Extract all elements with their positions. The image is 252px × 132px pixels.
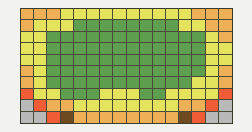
grid-cell-orange-r5c15 bbox=[219, 66, 232, 77]
grid-cell-yellow-r4c14 bbox=[206, 55, 219, 66]
grid-cell-yellow-r7c11 bbox=[166, 89, 179, 100]
grid-cell-green-r6c7 bbox=[113, 77, 126, 88]
grid-cell-yellow-r7c6 bbox=[100, 89, 113, 100]
grid-cell-yellow-r3c1 bbox=[34, 43, 47, 54]
grid-cell-red-r7c0 bbox=[21, 89, 34, 100]
grid-cell-green-r3c10 bbox=[153, 43, 166, 54]
grid-cell-yellow-r2c1 bbox=[34, 32, 47, 43]
grid-cell-yellow-r7c1 bbox=[34, 89, 47, 100]
grid-cell-green-r5c6 bbox=[100, 66, 113, 77]
grid-cell-green-r4c2 bbox=[47, 55, 60, 66]
grid-cell-green-r5c5 bbox=[87, 66, 100, 77]
grid-cell-green-r7c5 bbox=[87, 89, 100, 100]
grid-cell-yellow-r1c3 bbox=[61, 20, 74, 31]
grid-cell-yellow-r8c6 bbox=[100, 100, 113, 111]
grid-cell-green-r1c6 bbox=[100, 20, 113, 31]
grid-cell-yellow-r2c0 bbox=[21, 32, 34, 43]
grid-cell-green-r3c13 bbox=[192, 43, 205, 54]
grid-cell-yellow-r3c15 bbox=[219, 43, 232, 54]
grid-cell-yellow-r6c1 bbox=[34, 77, 47, 88]
grid-cell-green-r2c3 bbox=[61, 32, 74, 43]
grid-cell-green-r5c9 bbox=[140, 66, 153, 77]
grid-cell-yellow-r0c4 bbox=[74, 9, 87, 20]
grid-cell-yellow-r3c0 bbox=[21, 43, 34, 54]
grid-cell-green-r3c9 bbox=[140, 43, 153, 54]
grid-cell-green-r6c9 bbox=[140, 77, 153, 88]
grid-cell-green-r4c6 bbox=[100, 55, 113, 66]
grid-cell-orange-r8c13 bbox=[192, 100, 205, 111]
grid-cell-yellow-r1c2 bbox=[47, 20, 60, 31]
grid-cell-orange-r9c8 bbox=[127, 112, 140, 123]
grid-cell-orange-r0c0 bbox=[21, 9, 34, 20]
grid-cell-green-r2c4 bbox=[74, 32, 87, 43]
grid-cell-green-r3c4 bbox=[74, 43, 87, 54]
grid-cell-gray-r8c15 bbox=[219, 100, 232, 111]
grid-cell-green-r2c6 bbox=[100, 32, 113, 43]
grid-cell-orange-r6c15 bbox=[219, 77, 232, 88]
grid-cell-green-r5c8 bbox=[127, 66, 140, 77]
grid-cell-orange-r9c11 bbox=[166, 112, 179, 123]
grid-cell-green-r2c8 bbox=[127, 32, 140, 43]
grid-cell-green-r2c10 bbox=[153, 32, 166, 43]
grid-cell-orange-r9c9 bbox=[140, 112, 153, 123]
grid-cell-red-r9c13 bbox=[192, 112, 205, 123]
grid-cell-yellow-r2c14 bbox=[206, 32, 219, 43]
grid-cell-green-r5c2 bbox=[47, 66, 60, 77]
grid-cell-green-r6c4 bbox=[74, 77, 87, 88]
grid-cell-yellow-r4c1 bbox=[34, 55, 47, 66]
grid-cell-green-r5c7 bbox=[113, 66, 126, 77]
grid-cell-yellow-r7c12 bbox=[179, 89, 192, 100]
grid-cell-yellow-r5c14 bbox=[206, 66, 219, 77]
grid-cell-orange-r9c7 bbox=[113, 112, 126, 123]
grid-cell-yellow-r0c8 bbox=[127, 9, 140, 20]
grid-cell-yellow-r1c13 bbox=[192, 20, 205, 31]
grid-cell-yellow-r0c12 bbox=[179, 9, 192, 20]
grid-cell-green-r5c11 bbox=[166, 66, 179, 77]
grid-cell-green-r4c11 bbox=[166, 55, 179, 66]
grid-cell-orange-r9c10 bbox=[153, 112, 166, 123]
grid-cell-green-r6c12 bbox=[179, 77, 192, 88]
grid-cell-yellow-r8c9 bbox=[140, 100, 153, 111]
grid-cell-red-r8c14 bbox=[206, 100, 219, 111]
grid-cell-yellow-r5c1 bbox=[34, 66, 47, 77]
grid-cell-green-r2c13 bbox=[192, 32, 205, 43]
grid-cell-yellow-r0c6 bbox=[100, 9, 113, 20]
grid-cell-green-r1c11 bbox=[166, 20, 179, 31]
grid-cell-yellow-r0c5 bbox=[87, 9, 100, 20]
grid-cell-yellow-r6c14 bbox=[206, 77, 219, 88]
grid-cell-green-r6c8 bbox=[127, 77, 140, 88]
grid-cell-green-r3c2 bbox=[47, 43, 60, 54]
grid-cell-green-r4c3 bbox=[61, 55, 74, 66]
grid-cell-green-r6c5 bbox=[87, 77, 100, 88]
grid-cell-green-r6c11 bbox=[166, 77, 179, 88]
grid-cell-yellow-r4c15 bbox=[219, 55, 232, 66]
grid-cell-green-r2c12 bbox=[179, 32, 192, 43]
grid-cell-orange-r1c14 bbox=[206, 20, 219, 31]
grid-cell-yellow-r1c12 bbox=[179, 20, 192, 31]
grid-cell-green-r4c8 bbox=[127, 55, 140, 66]
grid-cell-green-r1c5 bbox=[87, 20, 100, 31]
grid-cell-green-r2c11 bbox=[166, 32, 179, 43]
grid-cell-yellow-r6c13 bbox=[192, 77, 205, 88]
grid-cell-gray-r8c0 bbox=[21, 100, 34, 111]
grid-cell-yellow-r4c0 bbox=[21, 55, 34, 66]
grid-cell-brown-r9c12 bbox=[179, 112, 192, 123]
grid-cell-green-r1c8 bbox=[127, 20, 140, 31]
grid-cell-orange-r0c1 bbox=[34, 9, 47, 20]
grid-cell-orange-r1c15 bbox=[219, 20, 232, 31]
grid-cell-orange-r0c15 bbox=[219, 9, 232, 20]
grid-cell-orange-r6c0 bbox=[21, 77, 34, 88]
grid-cell-yellow-r8c7 bbox=[113, 100, 126, 111]
grid-cell-green-r6c2 bbox=[47, 77, 60, 88]
grid-cell-green-r4c9 bbox=[140, 55, 153, 66]
grid-cell-gray-r9c1 bbox=[34, 112, 47, 123]
grid-cell-orange-r9c4 bbox=[74, 112, 87, 123]
grid-cell-orange-r8c2 bbox=[47, 100, 60, 111]
grid-cell-green-r5c13 bbox=[192, 66, 205, 77]
grid-cell-red-r8c1 bbox=[34, 100, 47, 111]
grid-cell-green-r3c5 bbox=[87, 43, 100, 54]
grid-cell-yellow-r8c4 bbox=[74, 100, 87, 111]
grid-cell-green-r3c3 bbox=[61, 43, 74, 54]
grid-cell-yellow-r1c1 bbox=[34, 20, 47, 31]
grid-cell-orange-r2c15 bbox=[219, 32, 232, 43]
